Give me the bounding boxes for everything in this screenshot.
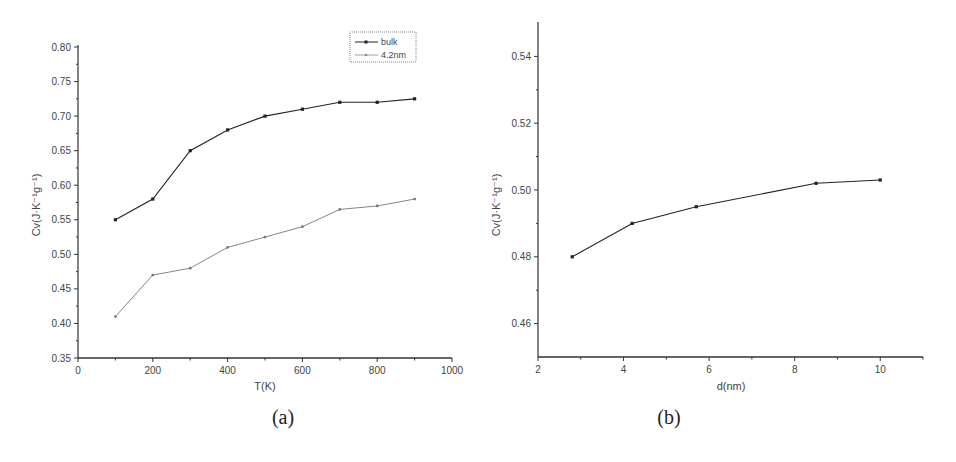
y-axis-label-b: Cv(J·K⁻¹g⁻¹) bbox=[490, 174, 502, 237]
y-tick-label: 0.35 bbox=[52, 353, 72, 364]
legend-4-2nm: 4.2nm bbox=[381, 50, 406, 60]
y-tick-label: 0.75 bbox=[52, 76, 72, 87]
x-tick-label: 800 bbox=[369, 365, 386, 376]
chart-b: 0.460.480.500.520.54246810 bbox=[512, 22, 923, 375]
x-tick-label: 4 bbox=[621, 364, 627, 375]
y-tick-label: 0.46 bbox=[512, 318, 532, 329]
y-tick-label: 0.40 bbox=[52, 318, 72, 329]
caption-b: (b) bbox=[657, 406, 680, 429]
legend-bulk: bulk bbox=[381, 37, 398, 47]
x-axis-label-b: d(nm) bbox=[717, 380, 746, 392]
y-tick-label: 0.60 bbox=[52, 180, 72, 191]
y-tick-label: 0.55 bbox=[52, 214, 72, 225]
x-tick-label: 200 bbox=[144, 365, 161, 376]
y-tick-label: 0.65 bbox=[52, 145, 72, 156]
x-tick-label: 8 bbox=[792, 364, 798, 375]
caption-a: (a) bbox=[272, 406, 294, 429]
series-line bbox=[572, 180, 880, 257]
series-line bbox=[115, 199, 414, 316]
y-tick-label: 0.70 bbox=[52, 111, 72, 122]
y-tick-label: 0.52 bbox=[512, 118, 532, 129]
y-tick-label: 0.45 bbox=[52, 283, 72, 294]
x-tick-label: 6 bbox=[706, 364, 712, 375]
y-tick-label: 0.50 bbox=[52, 249, 72, 260]
legend: bulk 4.2nm bbox=[350, 32, 416, 62]
y-axis-label-a: Cv(J·K⁻¹g⁻¹) bbox=[30, 174, 42, 237]
x-tick-label: 400 bbox=[219, 365, 236, 376]
y-tick-label: 0.48 bbox=[512, 251, 532, 262]
y-tick-label: 0.80 bbox=[52, 42, 72, 53]
x-tick-label: 0 bbox=[75, 365, 81, 376]
figure: 0.350.400.450.500.550.600.650.700.750.80… bbox=[0, 0, 956, 462]
x-tick-label: 10 bbox=[875, 364, 887, 375]
chart-a: 0.350.400.450.500.550.600.650.700.750.80… bbox=[52, 42, 464, 377]
x-tick-label: 600 bbox=[294, 365, 311, 376]
x-tick-label: 1000 bbox=[441, 365, 464, 376]
x-tick-label: 2 bbox=[535, 364, 541, 375]
y-tick-label: 0.50 bbox=[512, 185, 532, 196]
x-axis-label-a: T(K) bbox=[254, 380, 275, 392]
y-tick-label: 0.54 bbox=[512, 51, 532, 62]
